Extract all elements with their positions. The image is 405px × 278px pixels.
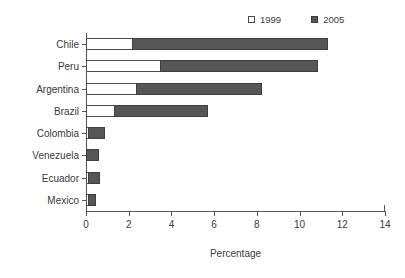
bar-segment-2005 <box>160 60 318 72</box>
chart-legend: 1999 2005 <box>248 12 398 26</box>
x-axis-tick <box>342 211 343 216</box>
x-axis-tick-label: 12 <box>337 219 348 230</box>
x-axis-tick <box>171 211 172 216</box>
bar-segment-2005 <box>114 105 208 117</box>
category-label: Peru <box>58 61 79 72</box>
x-axis-tick <box>129 211 130 216</box>
bar-segment-1999 <box>86 60 161 72</box>
bar-segment-2005 <box>86 149 99 161</box>
stacked-bar-chart: 1999 2005 ChilePeruArgentinaBrazilColomb… <box>0 0 405 278</box>
legend-swatch-1999-icon <box>248 16 255 23</box>
category-label: Colombia <box>37 128 79 139</box>
x-axis-tick-label: 14 <box>379 219 390 230</box>
stacked-bar <box>87 172 100 184</box>
category-label: Mexico <box>47 194 79 205</box>
category-label: Ecuador <box>42 172 79 183</box>
x-axis-tick <box>214 211 215 216</box>
bar-segment-2005 <box>88 127 105 139</box>
bar-segment-1999 <box>86 105 115 117</box>
stacked-bar <box>87 127 105 139</box>
legend-label-1999: 1999 <box>260 14 281 25</box>
x-axis-title: Percentage <box>86 248 385 259</box>
x-axis-tick <box>385 211 386 216</box>
legend-swatch-2005-icon <box>311 16 318 23</box>
x-axis-tick-label: 8 <box>254 219 260 230</box>
legend-entry-2005: 2005 <box>311 14 344 25</box>
stacked-bar <box>87 105 208 117</box>
category-label: Chile <box>56 39 79 50</box>
stacked-bar <box>87 83 262 95</box>
bar-segment-2005 <box>88 172 100 184</box>
bar-segment-1999 <box>86 38 133 50</box>
legend-entry-1999: 1999 <box>248 14 281 25</box>
bar-segment-2005 <box>88 194 95 206</box>
stacked-bar <box>87 60 318 72</box>
category-label: Argentina <box>36 83 79 94</box>
x-axis-line <box>86 211 385 212</box>
x-axis-tick-label: 2 <box>126 219 132 230</box>
x-axis-tick-label: 4 <box>169 219 175 230</box>
stacked-bar <box>87 149 99 161</box>
x-axis-tick <box>300 211 301 216</box>
stacked-bar <box>87 38 328 50</box>
category-label: Brazil <box>54 105 79 116</box>
plot-area: ChilePeruArgentinaBrazilColombiaVenezuel… <box>86 33 385 211</box>
x-axis-tick <box>257 211 258 216</box>
stacked-bar <box>87 194 96 206</box>
bar-segment-2005 <box>136 83 262 95</box>
x-axis-tick-label: 0 <box>83 219 89 230</box>
legend-label-2005: 2005 <box>323 14 344 25</box>
bar-segment-2005 <box>132 38 328 50</box>
bar-segment-1999 <box>86 83 137 95</box>
x-axis-tick-label: 10 <box>294 219 305 230</box>
x-axis-tick <box>86 211 87 216</box>
category-label: Venezuela <box>32 150 79 161</box>
x-axis-tick-label: 6 <box>211 219 217 230</box>
